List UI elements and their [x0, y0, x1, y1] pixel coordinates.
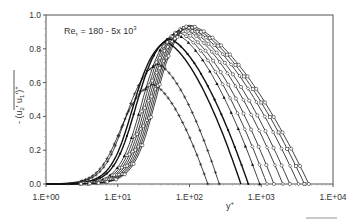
curve-Re_tau=1200: [46, 32, 267, 184]
y-tick-label: 0.4: [29, 111, 41, 121]
y-tick-label: 0.6: [29, 78, 41, 88]
x-tick-label: 1.E+00: [32, 192, 59, 202]
x-tick-label: 1.E+01: [104, 192, 131, 202]
curve-Re_tau=4000: [46, 26, 304, 184]
plot-frame: [46, 15, 333, 184]
data-curves: [46, 25, 310, 186]
reynolds-stress-chart: 0.00.20.40.60.81.0 1.E+001.E+011.E+021.E…: [0, 0, 359, 224]
x-tick-label: 1.E+03: [248, 192, 275, 202]
y-axis-label: - (u2' u1')+: [13, 86, 25, 124]
y-tick-label: 0.2: [29, 145, 41, 155]
reynolds-number-annotation: Reτ = 180 - 5x 103: [64, 25, 137, 37]
curve-Re_tau=5000: [46, 25, 309, 184]
x-axis-label: y+: [226, 200, 235, 211]
curve-Re_tau=3300: [46, 27, 299, 184]
x-tick-label: 1.E+04: [319, 192, 346, 202]
x-axis-ticks: 1.E+001.E+011.E+021.E+031.E+04: [32, 184, 346, 202]
y-axis-ticks: 0.00.20.40.60.81.0: [29, 10, 46, 189]
y-tick-label: 0.8: [29, 44, 41, 54]
plot-border: [46, 15, 333, 184]
x-tick-label: 1.E+02: [176, 192, 203, 202]
y-tick-label: 1.0: [29, 10, 41, 20]
y-tick-label: 0.0: [29, 179, 41, 189]
